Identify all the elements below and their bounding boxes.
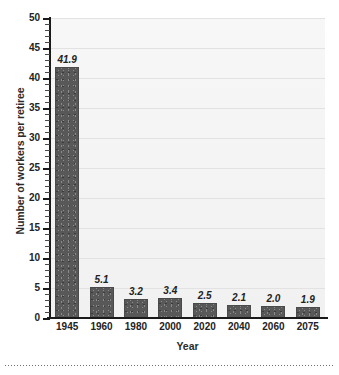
y-tick-label: 30 bbox=[0, 132, 40, 143]
y-tick-minor bbox=[45, 312, 50, 313]
y-tick-minor bbox=[45, 60, 50, 61]
bar-value-label: 2.5 bbox=[186, 290, 224, 301]
y-tick-minor bbox=[45, 30, 50, 31]
y-tick-label: 5 bbox=[0, 282, 40, 293]
plot-area: 41.95.13.23.42.52.12.01.9 bbox=[50, 18, 325, 318]
y-tick-minor bbox=[45, 300, 50, 301]
y-tick-minor bbox=[45, 210, 50, 211]
y-tick-minor bbox=[45, 222, 50, 223]
y-tick-minor bbox=[45, 216, 50, 217]
bar bbox=[158, 298, 182, 318]
y-tick-major bbox=[43, 318, 50, 320]
y-tick-label: 50 bbox=[0, 12, 40, 23]
y-tick-minor bbox=[45, 180, 50, 181]
y-tick-major bbox=[43, 228, 50, 230]
y-tick-minor bbox=[45, 132, 50, 133]
y-tick-label: 0 bbox=[0, 312, 40, 323]
y-tick-label: 15 bbox=[0, 222, 40, 233]
bar-chart-figure: Number of workers per retiree 41.95.13.2… bbox=[0, 0, 339, 375]
y-tick-minor bbox=[45, 84, 50, 85]
y-tick-minor bbox=[45, 90, 50, 91]
y-tick-minor bbox=[45, 126, 50, 127]
y-tick-label: 10 bbox=[0, 252, 40, 263]
y-tick-minor bbox=[45, 24, 50, 25]
y-tick-minor bbox=[45, 246, 50, 247]
bar bbox=[124, 299, 148, 318]
y-tick-minor bbox=[45, 270, 50, 271]
y-tick-minor bbox=[45, 252, 50, 253]
y-tick-minor bbox=[45, 240, 50, 241]
footer-divider bbox=[4, 364, 335, 366]
bar-value-label: 41.9 bbox=[48, 54, 86, 65]
bar bbox=[193, 303, 217, 318]
y-tick-minor bbox=[45, 42, 50, 43]
y-tick-minor bbox=[45, 204, 50, 205]
y-tick-minor bbox=[45, 54, 50, 55]
x-axis-line bbox=[47, 317, 328, 319]
y-tick-minor bbox=[45, 72, 50, 73]
bar bbox=[90, 287, 114, 318]
y-tick-minor bbox=[45, 276, 50, 277]
y-tick-label: 45 bbox=[0, 42, 40, 53]
y-tick-major bbox=[43, 108, 50, 110]
y-tick-major bbox=[43, 258, 50, 260]
y-tick-minor bbox=[45, 162, 50, 163]
y-tick-minor bbox=[45, 36, 50, 37]
y-tick-major bbox=[43, 48, 50, 50]
y-tick-label: 35 bbox=[0, 102, 40, 113]
bar-value-label: 3.4 bbox=[151, 285, 189, 296]
y-tick-minor bbox=[45, 144, 50, 145]
y-tick-minor bbox=[45, 306, 50, 307]
y-tick-major bbox=[43, 168, 50, 170]
bar bbox=[55, 67, 79, 318]
y-tick-label: 40 bbox=[0, 72, 40, 83]
bar-value-label: 3.2 bbox=[117, 286, 155, 297]
y-tick-major bbox=[43, 288, 50, 290]
y-tick-minor bbox=[45, 66, 50, 67]
x-axis-title: Year bbox=[50, 340, 325, 352]
y-tick-label: 25 bbox=[0, 162, 40, 173]
y-tick-minor bbox=[45, 114, 50, 115]
y-tick-minor bbox=[45, 120, 50, 121]
bar-value-label: 2.0 bbox=[254, 293, 292, 304]
y-tick-minor bbox=[45, 102, 50, 103]
y-tick-minor bbox=[45, 186, 50, 187]
bar-value-label: 5.1 bbox=[83, 274, 121, 285]
y-tick-major bbox=[43, 138, 50, 140]
y-tick-major bbox=[43, 198, 50, 200]
y-tick-minor bbox=[45, 294, 50, 295]
y-tick-minor bbox=[45, 96, 50, 97]
bar-value-label: 1.9 bbox=[289, 294, 327, 305]
y-tick-label: 20 bbox=[0, 192, 40, 203]
y-tick-minor bbox=[45, 150, 50, 151]
y-tick-minor bbox=[45, 264, 50, 265]
y-tick-minor bbox=[45, 192, 50, 193]
y-tick-minor bbox=[45, 174, 50, 175]
y-tick-major bbox=[43, 78, 50, 80]
y-tick-minor bbox=[45, 282, 50, 283]
y-tick-major bbox=[43, 18, 50, 20]
y-tick-minor bbox=[45, 156, 50, 157]
x-tick-label: 2075 bbox=[286, 321, 330, 332]
y-tick-minor bbox=[45, 234, 50, 235]
bars-layer: 41.95.13.23.42.52.12.01.9 bbox=[50, 18, 325, 318]
y-axis-title: Number of workers per retiree bbox=[14, 56, 26, 266]
bar-value-label: 2.1 bbox=[220, 292, 258, 303]
